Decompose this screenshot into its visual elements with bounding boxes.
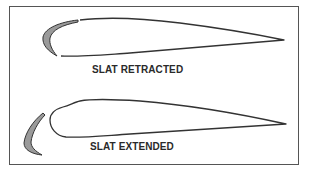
extended-slat	[24, 113, 45, 155]
retracted-slat	[43, 20, 78, 56]
caption-slat-extended: SLAT EXTENDED	[90, 142, 174, 152]
extended-wing-outline	[50, 100, 286, 138]
retracted-wing-outline	[61, 18, 284, 56]
caption-slat-retracted: SLAT RETRACTED	[92, 65, 183, 75]
retracted-airfoil-group	[43, 18, 284, 56]
